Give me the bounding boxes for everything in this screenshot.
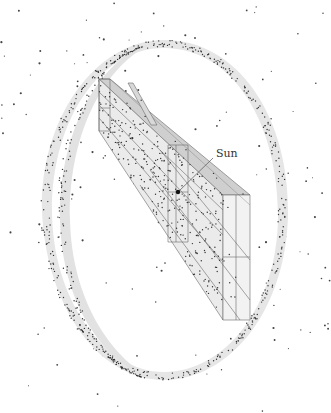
sun-marker xyxy=(176,190,180,194)
galaxy-diagram xyxy=(0,0,331,413)
sun-label: Sun xyxy=(216,147,238,160)
diagram-canvas: Sun xyxy=(0,0,331,413)
disk-slab xyxy=(99,79,250,320)
